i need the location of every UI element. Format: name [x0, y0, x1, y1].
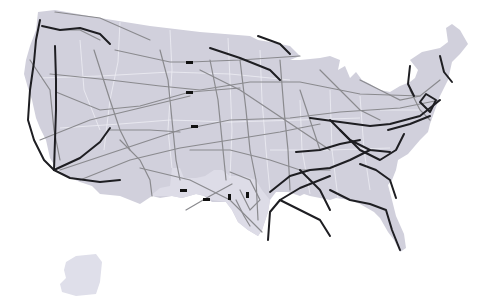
- marker: [180, 189, 187, 192]
- marker: [203, 198, 210, 201]
- marker: [186, 61, 193, 64]
- marker: [228, 194, 231, 200]
- marker: [246, 192, 249, 198]
- island-landmass: [60, 254, 102, 296]
- land-layer: [24, 10, 468, 296]
- marker: [191, 125, 198, 128]
- marker: [186, 91, 193, 94]
- us-network-map: [0, 0, 488, 304]
